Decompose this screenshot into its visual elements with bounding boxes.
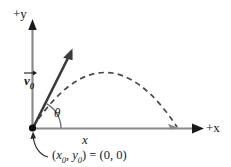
velocity-vector-label: v0 xyxy=(24,74,34,90)
velocity-subscript-text: 0 xyxy=(30,81,34,91)
y-axis-arrowhead-icon xyxy=(28,19,36,30)
origin-point-marker xyxy=(29,124,36,131)
origin-equals: = xyxy=(86,148,99,162)
y-axis-label-text: +y xyxy=(13,6,27,21)
angle-label: θ xyxy=(54,106,60,119)
velocity-symbol-group: v xyxy=(24,74,30,87)
x-axis-label-text: +x xyxy=(206,120,220,135)
figure-canvas xyxy=(0,0,231,167)
velocity-symbol-text: v xyxy=(24,73,30,88)
origin-coordinates-label: (x0, y0) = (0, 0) xyxy=(52,149,127,164)
horizontal-distance-label-text: x xyxy=(82,132,88,147)
projectile-motion-figure: +y +x x θ v0 (x0, y0) = (0, 0) xyxy=(0,0,231,167)
y-axis-label: +y xyxy=(13,7,27,20)
horizontal-distance-label: x xyxy=(82,133,88,146)
velocity-vector-line xyxy=(33,56,69,128)
x-axis-arrowhead-icon xyxy=(192,124,204,134)
angle-label-text: θ xyxy=(54,105,60,120)
vector-arrow-icon xyxy=(24,69,35,74)
velocity-vector-arrowhead-icon xyxy=(63,49,72,61)
x-axis-label: +x xyxy=(206,121,220,134)
origin-value: (0, 0) xyxy=(100,148,127,162)
origin-leader-arrowhead-icon xyxy=(30,132,36,140)
